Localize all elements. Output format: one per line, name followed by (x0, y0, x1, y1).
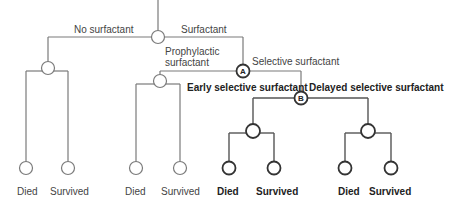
early-selective-node (246, 124, 260, 138)
prophylactic-node (154, 75, 167, 88)
outcome-label: Died (17, 186, 38, 197)
outcome-node (385, 162, 398, 175)
delayed-selective-node (361, 124, 375, 138)
label-prophylactic-2: surfactant (165, 57, 209, 68)
label-no-surfactant: No surfactant (74, 24, 134, 35)
root-chance-node (152, 31, 165, 44)
outcome-label: Survived (369, 186, 411, 197)
label-early-selective: Early selective surfactant (187, 82, 308, 93)
node-a-label: A (240, 67, 246, 76)
outcome-node (62, 162, 75, 175)
outcome-node (174, 162, 187, 175)
outcome-node (130, 162, 143, 175)
no-surfactant-node (42, 62, 55, 75)
decision-tree: A B No surfactant Surfactant Prophylacti… (0, 0, 450, 203)
outcome-label: Survived (256, 186, 298, 197)
node-b-label: B (298, 94, 304, 103)
outcome-node (223, 162, 236, 175)
outcome-node (339, 162, 352, 175)
label-surfactant: Surfactant (181, 24, 227, 35)
outcome-label: Survived (161, 186, 200, 197)
outcome-label: Died (125, 186, 146, 197)
label-delayed-selective: Delayed selective surfactant (309, 82, 444, 93)
outcome-label: Survived (50, 186, 89, 197)
outcome-node (268, 162, 281, 175)
outcome-label: Died (217, 186, 239, 197)
outcome-label: Died (338, 186, 360, 197)
outcome-node (20, 162, 33, 175)
label-selective: Selective surfactant (252, 56, 339, 67)
label-prophylactic-1: Prophylactic (165, 46, 219, 57)
